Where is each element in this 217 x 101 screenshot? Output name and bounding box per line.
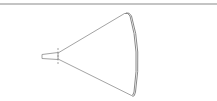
horn-antenna-diagram — [0, 0, 217, 101]
feed-waveguide — [42, 53, 58, 60]
beam-upper-edge — [58, 14, 125, 54]
beam-lower-edge — [58, 59, 132, 96]
